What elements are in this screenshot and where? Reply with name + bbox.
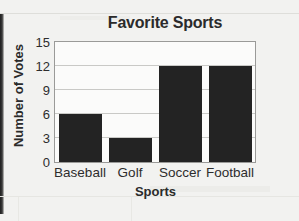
plot-area bbox=[54, 41, 256, 163]
x-axis-tick-label: Golf bbox=[118, 165, 143, 180]
scan-box-artifact bbox=[18, 197, 132, 221]
bar-football bbox=[209, 66, 252, 162]
scan-edge-artifact bbox=[0, 14, 4, 214]
bar-soccer bbox=[159, 66, 202, 162]
chart-title: Favorite Sports bbox=[40, 14, 290, 32]
x-axis-title: Sports bbox=[54, 184, 257, 199]
bars-layer bbox=[55, 42, 255, 162]
x-axis-tick-label: Football bbox=[206, 165, 254, 180]
x-axis-tick-label: Baseball bbox=[54, 165, 106, 180]
y-axis-tick-label: 3 bbox=[43, 132, 50, 145]
bar-golf bbox=[109, 138, 152, 162]
y-axis-tick-label: 9 bbox=[43, 84, 50, 97]
y-axis-tick-label: 6 bbox=[43, 108, 50, 121]
y-axis-tick-label: 0 bbox=[43, 156, 50, 169]
bar-chart-figure: Favorite Sports Number of Votes 03691215… bbox=[0, 0, 299, 221]
x-axis-tick-labels: BaseballGolfSoccerFootball bbox=[54, 165, 257, 183]
x-axis-tick-label: Soccer bbox=[159, 165, 201, 180]
y-axis-tick-label: 12 bbox=[36, 60, 50, 73]
y-axis-tick-labels: 03691215 bbox=[24, 41, 50, 163]
y-axis-tick-label: 15 bbox=[36, 36, 50, 49]
bar-baseball bbox=[59, 114, 102, 162]
